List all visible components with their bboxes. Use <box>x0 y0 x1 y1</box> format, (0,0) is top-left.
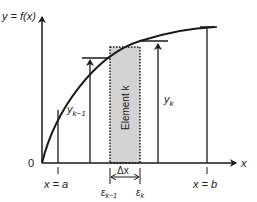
eps-k-label: εk <box>136 187 144 199</box>
x-a-label: x = a <box>43 178 68 190</box>
x-b-label: x = b <box>192 178 217 190</box>
y-k-label: yk <box>163 93 175 108</box>
delta-x-label: Δx <box>117 165 129 176</box>
riemann-element-diagram: y = f(x) x 0 x = a x = b yk−1 yk Element… <box>0 0 257 202</box>
x-axis-label: x <box>240 157 247 169</box>
element-k-label: Element k <box>120 85 131 130</box>
origin-label: 0 <box>28 157 34 169</box>
eps-km1-label: εk−1 <box>101 187 117 199</box>
y-km1-label: yk−1 <box>66 103 86 118</box>
y-axis-label: y = f(x) <box>1 10 36 22</box>
